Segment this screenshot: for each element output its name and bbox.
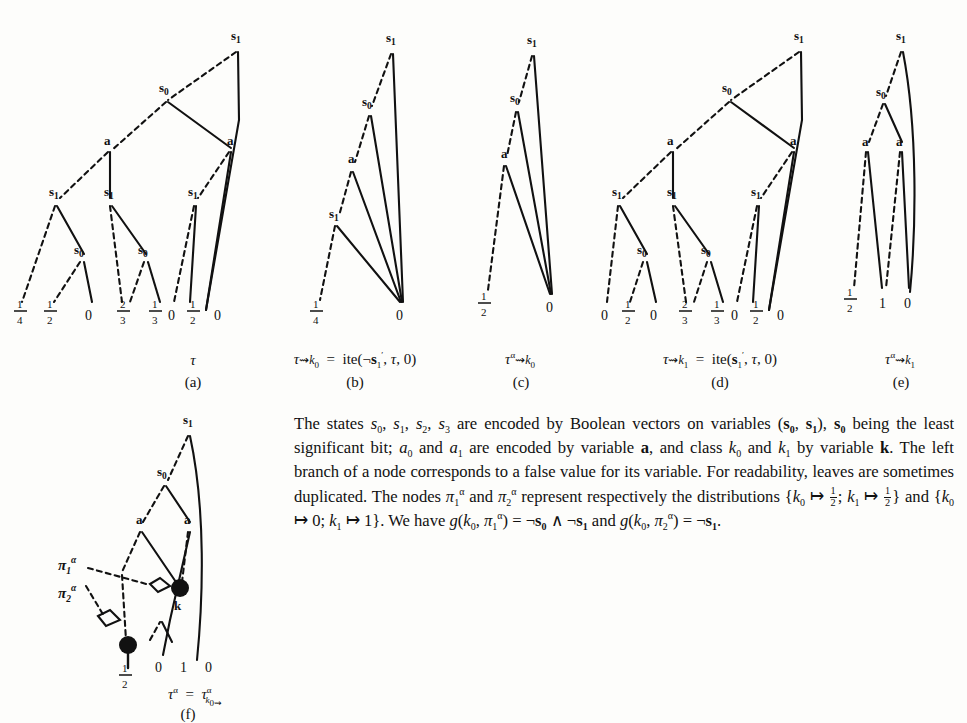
svg-text:1: 1 [714, 298, 720, 310]
node-label-s1: s1 [527, 32, 537, 49]
caption-a: τ [168, 352, 218, 369]
panel-id-c: (c) [496, 374, 546, 391]
panel-id-f: (f) [163, 706, 213, 723]
svg-text:2: 2 [753, 314, 759, 326]
svg-text:3: 3 [152, 314, 158, 326]
svg-text:2: 2 [47, 314, 53, 326]
panel-b-node-labels: s1 s0 a s1 [329, 30, 396, 223]
node-label-s1: s1 [794, 28, 804, 45]
svg-text:1: 1 [190, 298, 196, 310]
leaf-zero: 0 [155, 660, 162, 675]
node-label-a: a [227, 133, 234, 148]
leaf-zero: 0 [396, 308, 403, 323]
panel-a-tree [22, 52, 239, 310]
leaf-zero: 0 [601, 308, 608, 323]
leaf-fraction: 12 [622, 298, 635, 326]
panel-c-tree [488, 56, 552, 294]
panel-b-leaves: 14 0 [310, 298, 403, 326]
caption-e: τα⇝k1 [855, 350, 945, 370]
node-label-s1: s1 [329, 206, 339, 223]
node-label-s1: s1 [231, 28, 241, 45]
leaf-fraction: 12 [478, 290, 491, 318]
node-label-s0: s0 [637, 242, 647, 259]
panel-d-node-labels: s1 s0 a a s1 s1 s1 s0 s0 [612, 28, 804, 259]
panel-d-leaves: 0 12 0 23 13 0 12 0 [601, 298, 784, 326]
leaf-zero: 0 [85, 308, 92, 323]
leaf-fraction: 12 [844, 286, 857, 314]
panel-f-pi-labels: π1α π2α [58, 555, 77, 604]
panel-d-tree [607, 52, 802, 310]
panel-c-leaves: 12 0 [478, 290, 553, 318]
leaf-fraction: 14 [310, 298, 323, 326]
panel-id-e: (e) [876, 374, 926, 391]
svg-text:1: 1 [481, 290, 487, 302]
node-label-a: a [136, 512, 143, 527]
leaf-fraction: 23 [679, 298, 692, 326]
panel-id-a: (a) [168, 374, 218, 391]
caption-a-expr: τ [190, 352, 195, 368]
node-label-k: k [174, 598, 182, 613]
panel-e-node-labels: s1 s0 a a [862, 28, 906, 149]
node-label-s1: s1 [49, 184, 59, 201]
svg-text:1: 1 [47, 298, 53, 310]
node-label-s0: s0 [159, 80, 169, 97]
leaf-one: 1 [180, 660, 187, 675]
node-label-a: a [184, 512, 191, 527]
node-label-s0: s0 [701, 242, 711, 259]
caption-b: τ⇝k0 = ite(¬s1′, τ, 0) [240, 350, 470, 370]
node-label-s0: s0 [138, 242, 148, 259]
panel-a-node-labels: s1 s0 a a s1 s1 s1 s0 s0 [49, 28, 241, 259]
svg-text:4: 4 [17, 314, 23, 326]
node-label-s1: s1 [386, 30, 396, 47]
svg-text:2: 2 [625, 314, 631, 326]
panel-e-leaves: 12 1 0 [844, 286, 911, 314]
leaf-zero: 0 [904, 296, 911, 311]
node-label-a: a [104, 133, 111, 148]
pi-label-1: π1α [58, 555, 77, 576]
node-label-s1: s1 [188, 184, 198, 201]
node-label-s0: s0 [876, 84, 886, 101]
node-label-s1: s1 [104, 184, 114, 201]
node-label-s1: s1 [667, 184, 677, 201]
svg-text:3: 3 [682, 314, 688, 326]
explanatory-paragraph: The states s0, s1, s2, s3 are encoded by… [294, 412, 954, 533]
node-label-s1: s1 [612, 184, 622, 201]
node-label-a: a [501, 146, 508, 161]
node-label-s1: s1 [183, 412, 193, 429]
svg-text:1: 1 [753, 298, 759, 310]
node-label-a: a [667, 133, 674, 148]
svg-text:1: 1 [17, 298, 23, 310]
node-label-a: a [790, 133, 797, 148]
panel-f-tree [86, 436, 202, 668]
svg-text:1: 1 [313, 298, 319, 310]
node-label-s0: s0 [157, 464, 167, 481]
svg-text:2: 2 [190, 314, 196, 326]
svg-text:1: 1 [847, 286, 853, 298]
svg-text:3: 3 [120, 314, 126, 326]
leaf-fraction: 14 [14, 298, 27, 326]
leaf-zero: 0 [777, 308, 784, 323]
node-label-a: a [896, 134, 903, 149]
panel-id-d: (d) [695, 374, 745, 391]
svg-text:1: 1 [152, 298, 158, 310]
svg-text:2: 2 [481, 306, 487, 318]
caption-d: τ⇝k1 = ite(s1′, τ, 0) [610, 350, 830, 370]
svg-text:2: 2 [120, 298, 126, 310]
pi-label-2: π2α [58, 583, 77, 604]
leaf-zero: 0 [168, 308, 175, 323]
node-label-s0: s0 [74, 242, 84, 259]
node-label-s0: s0 [722, 80, 732, 97]
panel-a-leaves: 14 12 0 23 13 0 12 0 [14, 298, 221, 326]
leaf-one: 1 [879, 296, 886, 311]
svg-text:3: 3 [714, 314, 720, 326]
panel-b-tree [320, 54, 403, 302]
leaf-fraction: 23 [117, 298, 130, 326]
panel-c-node-labels: s1 s0 a [501, 32, 537, 161]
node-label-a: a [862, 134, 869, 149]
leaf-zero: 0 [214, 308, 221, 323]
node-label-s1: s1 [751, 184, 761, 201]
panel-id-b: (b) [330, 374, 380, 391]
leaf-zero: 0 [650, 308, 657, 323]
panel-e-tree [854, 52, 914, 292]
